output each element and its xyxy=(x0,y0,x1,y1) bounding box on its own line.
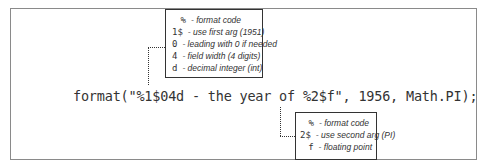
format-description: - format code xyxy=(191,15,241,25)
format-description: - use first arg (1951) xyxy=(188,27,265,37)
format-description: - format code xyxy=(319,118,369,128)
format-symbol: d xyxy=(172,63,177,73)
callout-row: %- format code xyxy=(172,14,258,26)
top-callout-box: %- format code 1$- use first arg (1951) … xyxy=(165,9,263,78)
format-symbol: 4 xyxy=(172,51,177,61)
format-symbol: 1$ xyxy=(172,27,183,37)
top-connector-vertical xyxy=(148,47,149,85)
format-description: - decimal integer (int) xyxy=(182,63,262,73)
format-symbol: % xyxy=(172,15,186,25)
callout-row: 1$- use first arg (1951) xyxy=(172,26,258,38)
callout-row: %- format code xyxy=(300,117,372,129)
bottom-connector-vertical xyxy=(280,107,281,136)
callout-row: f- floating point xyxy=(300,141,372,153)
callout-row: 0- leading with 0 if needed xyxy=(172,38,258,50)
format-description: - field width (4 digits) xyxy=(182,51,260,61)
callout-row: 2$- use second arg (PI) xyxy=(300,129,372,141)
format-symbol: f xyxy=(300,142,314,152)
code-line: format("%1$04d - the year of %2$f", 1956… xyxy=(73,88,477,104)
callout-row: 4- field width (4 digits) xyxy=(172,50,258,62)
callout-row: d- decimal integer (int) xyxy=(172,62,258,74)
format-description: - floating point xyxy=(319,142,372,152)
bottom-connector-horizontal xyxy=(280,136,295,137)
format-description: - use second arg (PI) xyxy=(316,130,395,140)
format-symbol: 0 xyxy=(172,39,177,49)
bottom-callout-box: %- format code 2$- use second arg (PI) f… xyxy=(295,112,377,160)
format-symbol: 2$ xyxy=(300,130,311,140)
top-connector-horizontal xyxy=(148,47,165,48)
format-symbol: % xyxy=(300,118,314,128)
format-description: - leading with 0 if needed xyxy=(182,39,277,49)
